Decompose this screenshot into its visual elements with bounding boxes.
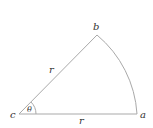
radius-top-label: r: [49, 64, 55, 75]
vertex-a-label: a: [140, 109, 146, 120]
angle-theta-label: θ: [27, 105, 32, 114]
vertex-c-label: c: [10, 109, 16, 120]
radius-bottom-label: r: [79, 115, 85, 126]
sector-diagram: b a c θ r r: [0, 0, 153, 128]
arc-ba: [97, 35, 137, 114]
radius-cb: [19, 35, 97, 114]
vertex-b-label: b: [93, 21, 99, 32]
